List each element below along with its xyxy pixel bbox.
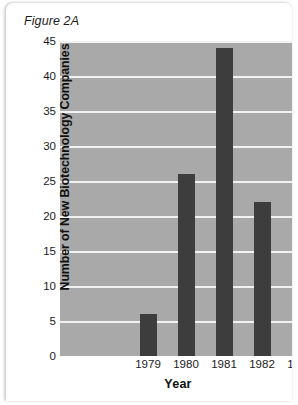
- y-tick-label: 15: [22, 245, 56, 257]
- y-tick-label: 40: [22, 70, 56, 82]
- y-tick-label: 30: [22, 140, 56, 152]
- y-tick-label: 0: [22, 350, 56, 362]
- gridline: [60, 181, 292, 183]
- bar-chart-plot-area: [60, 41, 292, 356]
- gridline: [60, 41, 292, 43]
- x-axis-tick-labels: 19791980198119821983: [60, 358, 292, 374]
- figure-card: Figure 2A 051015202530354045 Number of N…: [6, 3, 292, 401]
- y-tick-label: 35: [22, 105, 56, 117]
- bar-1979: [140, 314, 157, 356]
- x-tick-label: 1980: [166, 358, 206, 370]
- gridline: [60, 76, 292, 78]
- y-tick-label: 5: [22, 315, 56, 327]
- y-axis-title: Number of New Biotechnology Companies: [58, 12, 72, 322]
- y-tick-label: 25: [22, 175, 56, 187]
- y-tick-label: 20: [22, 210, 56, 222]
- x-tick-label: 1979: [128, 358, 168, 370]
- x-tick-label: 1982: [242, 358, 282, 370]
- x-axis-title: Year: [60, 377, 292, 391]
- y-tick-label: 10: [22, 280, 56, 292]
- bar-1980: [178, 174, 195, 356]
- gridline: [60, 146, 292, 148]
- x-tick-label: 1983: [280, 358, 292, 370]
- y-tick-label: 45: [22, 35, 56, 47]
- bar-1983: [292, 335, 293, 356]
- x-tick-label: 1981: [204, 358, 244, 370]
- gridline: [60, 111, 292, 113]
- y-axis-tick-labels: 051015202530354045: [16, 41, 56, 356]
- bar-1982: [254, 202, 271, 356]
- bar-1981: [216, 48, 233, 356]
